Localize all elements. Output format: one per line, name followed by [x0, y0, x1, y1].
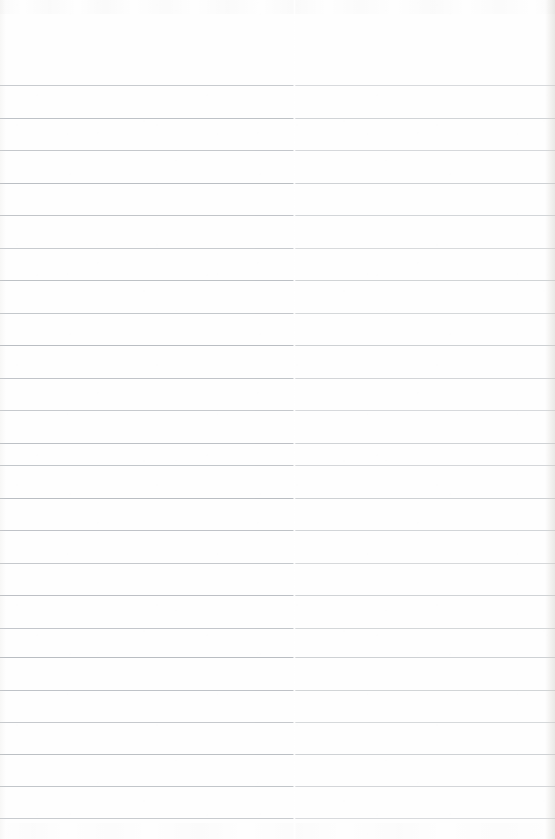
- ruled-line: [0, 628, 555, 629]
- ruled-line: [0, 595, 555, 596]
- ruled-line: [0, 465, 555, 466]
- ruled-line: [0, 563, 555, 564]
- ruled-line: [0, 248, 555, 249]
- ruled-line: [0, 690, 555, 691]
- ruled-line: [0, 818, 555, 819]
- ruled-line: [0, 345, 555, 346]
- ruled-line: [0, 313, 555, 314]
- scanned-page: [0, 0, 555, 839]
- ruled-line: [0, 786, 555, 787]
- ruled-line: [0, 443, 555, 444]
- ruled-line: [0, 215, 555, 216]
- ruled-lines-group: [0, 0, 555, 839]
- ruled-line: [0, 183, 555, 184]
- ruled-line: [0, 657, 555, 658]
- ruled-line: [0, 85, 555, 86]
- ruled-line: [0, 410, 555, 411]
- ruled-line: [0, 754, 555, 755]
- ruled-line: [0, 118, 555, 119]
- ruled-line: [0, 280, 555, 281]
- ruled-line: [0, 722, 555, 723]
- ruled-line: [0, 378, 555, 379]
- ruled-line: [0, 150, 555, 151]
- ruled-line: [0, 530, 555, 531]
- ruled-line: [0, 498, 555, 499]
